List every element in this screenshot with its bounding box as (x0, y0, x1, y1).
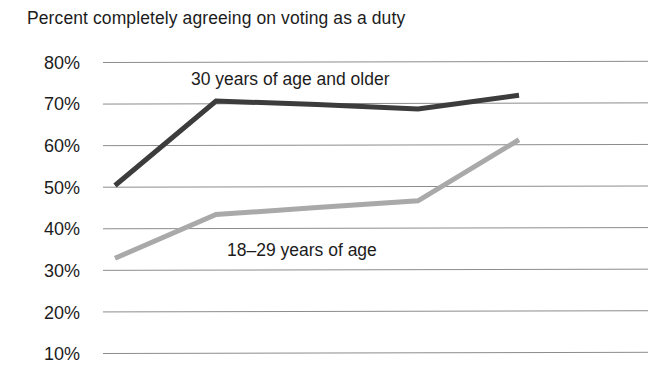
series-line-older (115, 95, 519, 185)
gridline (103, 269, 648, 270)
gridline (103, 103, 648, 104)
gridline (103, 61, 648, 62)
plot-area (0, 0, 664, 372)
gridline (103, 311, 648, 312)
series-label-older: 30 years of age and older (186, 68, 394, 91)
chart-container: Percent completely agreeing on voting as… (0, 0, 664, 372)
gridline (103, 144, 648, 145)
gridline (103, 186, 648, 187)
gridline (103, 352, 648, 353)
series-label-younger: 18–29 years of age (222, 239, 382, 262)
series-lines (115, 95, 519, 258)
